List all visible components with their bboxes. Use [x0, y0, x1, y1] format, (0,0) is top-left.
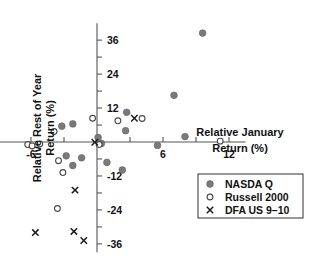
legend-marker-open-circle	[207, 194, 213, 200]
x-axis-title-line2: Return (%)	[212, 142, 268, 154]
data-point	[154, 142, 161, 149]
data-point	[72, 187, 78, 193]
data-point	[90, 115, 96, 121]
data-point	[71, 228, 77, 234]
data-point	[56, 158, 62, 164]
data-point	[199, 30, 206, 37]
legend-item-label: DFA US 9–10	[225, 204, 290, 216]
data-point	[139, 116, 145, 122]
legend-item-label: NASDA Q	[225, 178, 273, 190]
data-point	[63, 152, 70, 159]
chart-canvas: -6612362412-12-24-36 Relative Rest of Ye…	[0, 0, 316, 262]
x-axis-title: Relative January Return (%)	[196, 126, 284, 154]
series-nasda-q	[58, 30, 206, 174]
y-axis-title: Relative Rest of Year Return (%)	[31, 73, 56, 182]
y-axis-title-line2: Return (%)	[44, 100, 56, 156]
data-point	[123, 109, 130, 116]
data-point	[78, 154, 85, 161]
scatter-chart: -6612362412-12-24-36 Relative Rest of Ye…	[0, 0, 316, 262]
y-tick-label: 24	[107, 68, 119, 80]
data-point	[81, 237, 87, 243]
data-point	[119, 167, 126, 174]
data-point	[69, 162, 76, 169]
legend-marker-filled-circle	[207, 181, 214, 188]
y-tick-label: 36	[107, 34, 119, 46]
data-point	[32, 229, 38, 235]
data-point	[122, 127, 129, 134]
y-tick-label: 12	[107, 102, 119, 114]
data-point	[58, 123, 65, 130]
data-point	[55, 206, 61, 212]
y-tick-label: -36	[107, 238, 122, 250]
data-point	[182, 133, 189, 140]
data-point	[171, 92, 178, 99]
legend: NASDA QRussell 2000DFA US 9–10	[198, 174, 303, 218]
data-point	[69, 120, 76, 127]
data-point	[60, 170, 66, 176]
y-axis-title-line1: Relative Rest of Year	[31, 73, 43, 182]
x-tick-label: 6	[160, 148, 166, 160]
x-axis-title-line1: Relative January	[196, 126, 284, 138]
y-tick-label: -24	[107, 204, 122, 216]
data-point	[115, 118, 121, 124]
data-point	[131, 115, 137, 121]
data-point	[104, 159, 111, 166]
legend-item-label: Russell 2000	[225, 191, 289, 203]
